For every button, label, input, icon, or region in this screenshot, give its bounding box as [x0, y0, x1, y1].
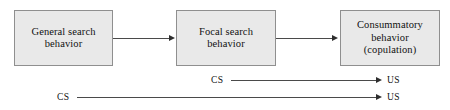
- node-consummatory-line-3: (copulation): [364, 44, 417, 55]
- node-focal-search-label: Focal search behavior: [195, 26, 257, 51]
- node-consummatory-line-1: Consummatory: [357, 19, 423, 30]
- node-general-search-behavior: General search behavior: [14, 10, 113, 66]
- node-focal-search-line-1: Focal search: [199, 26, 253, 37]
- cs-label-lower: CS: [57, 92, 69, 102]
- node-general-search-label: General search behavior: [27, 26, 99, 51]
- cs-label-upper: CS: [211, 75, 223, 85]
- node-focal-search-line-2: behavior: [207, 38, 245, 49]
- behavior-sequence-diagram: General search behavior Focal search beh…: [0, 0, 450, 110]
- node-consummatory-label: Consummatory behavior (copulation): [353, 19, 427, 57]
- flow-connector-1-line: [113, 38, 170, 39]
- node-consummatory-line-2: behavior: [371, 32, 409, 43]
- node-general-search-line-2: behavior: [45, 38, 83, 49]
- cs-us-connector-lower-line: [77, 97, 377, 98]
- cs-us-connector-upper-line: [231, 80, 377, 81]
- us-label-upper: US: [387, 75, 400, 85]
- node-focal-search-behavior: Focal search behavior: [176, 10, 276, 66]
- us-label-lower: US: [387, 92, 400, 102]
- node-general-search-line-1: General search: [31, 26, 95, 37]
- node-consummatory-behavior: Consummatory behavior (copulation): [340, 10, 440, 66]
- cs-us-connector-lower-arrowhead-icon: [376, 94, 382, 100]
- cs-us-connector-upper-arrowhead-icon: [376, 77, 382, 83]
- flow-connector-2-arrowhead-icon: [332, 35, 338, 41]
- flow-connector-2-line: [276, 38, 333, 39]
- flow-connector-1-arrowhead-icon: [169, 35, 175, 41]
